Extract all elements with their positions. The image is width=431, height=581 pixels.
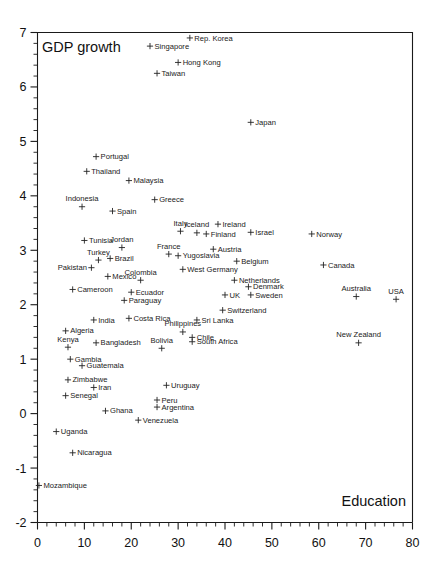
y-axis-title: GDP growth [42,39,121,55]
data-point: Australia [341,284,371,300]
data-point: Yugoslavia [175,251,220,260]
data-point-label: Indonesia [66,194,100,203]
plus-marker-icon [65,344,71,350]
plus-marker-icon [175,253,181,259]
data-point-label: Ghana [110,406,134,415]
data-point-label: USA [388,287,405,296]
data-point: Ireland [215,220,246,229]
y-tick-label: -1 [15,462,26,476]
data-point: UK [222,291,240,300]
data-point-label: Guatemala [87,361,125,370]
data-point: Taiwan [154,69,185,78]
plus-marker-icon [353,293,359,299]
plus-marker-icon [81,237,87,243]
plus-marker-icon [63,393,69,399]
data-point-label: Kenya [57,335,79,344]
plus-marker-icon [93,340,99,346]
data-point-label: Pakistan [58,263,87,272]
data-point: Tunisia [81,236,114,245]
plus-marker-icon [128,289,134,295]
data-point: Switzerland [220,306,267,315]
plus-marker-icon [135,417,141,423]
data-point-label: Switzerland [227,306,266,315]
x-tick-label: 60 [312,536,326,550]
data-point-label: Senegal [70,391,98,400]
plus-marker-icon [63,328,69,334]
plus-marker-icon [215,221,221,227]
data-point: Singapore [147,42,189,51]
plus-marker-icon [393,296,399,302]
data-point-label: Sri Lanka [201,316,234,325]
data-point: Turkey [87,248,110,264]
plus-marker-icon [105,273,111,279]
data-point: India [91,316,116,325]
plus-marker-icon [159,345,165,351]
plus-marker-icon [355,340,361,346]
data-point: Jordan [110,235,133,251]
data-point-label: Ireland [222,220,245,229]
plus-marker-icon [180,266,186,272]
data-point: Sweden [248,291,283,300]
plus-marker-icon [163,382,169,388]
plus-marker-icon [88,265,94,271]
plus-marker-icon [154,404,160,410]
y-tick-label: 1 [20,353,27,367]
data-point-label: Bolivia [151,336,174,345]
data-point-label: Singapore [155,42,190,51]
data-point-label: Yugoslavia [183,251,221,260]
plus-marker-icon [180,329,186,335]
data-point-label: Philippines [164,319,201,328]
data-point-label: Australia [341,284,371,293]
data-point-label: Thailand [91,167,120,176]
data-point: Bolivia [151,336,174,352]
plus-marker-icon [222,292,228,298]
plus-marker-icon [147,43,153,49]
x-tick-label: 50 [265,536,279,550]
data-point-label: Hong Kong [183,58,221,67]
data-point-label: Nicaragua [77,448,112,457]
data-point-label: Austria [218,245,242,254]
data-point-label: Iceland [185,220,210,229]
data-point: Cameroon [70,285,113,294]
plus-marker-icon [102,408,108,414]
x-tick-label: 20 [124,536,138,550]
data-point: Nicaragua [70,448,113,457]
data-point-label: Venezuela [143,416,179,425]
plus-marker-icon [194,230,200,236]
plus-marker-icon [231,277,237,283]
data-point-label: Rep. Korea [194,34,233,43]
data-point: Portugal [93,152,129,161]
y-axis-tick-labels: -2-101234567 [15,26,26,530]
data-point: USA [388,287,405,303]
data-point: Hong Kong [175,58,221,67]
data-point: Venezuela [135,416,179,425]
plus-marker-icon [53,428,59,434]
plus-marker-icon [234,258,240,264]
data-point: Mozambique [36,481,87,490]
plus-marker-icon [152,197,158,203]
x-tick-label: 0 [34,536,41,550]
data-point-label: Colombia [125,268,158,277]
data-point-label: Norway [316,230,342,239]
data-point-label: Canada [328,261,355,270]
scatter-plot-figure: 01020304050607080 -2-101234567 Singapore… [0,0,431,581]
x-tick-label: 30 [171,536,185,550]
plus-marker-icon [95,257,101,263]
x-tick-label: 80 [406,536,420,550]
data-point: Malaysia [126,176,164,185]
plus-marker-icon [138,277,144,283]
data-point-label: New Zealand [336,330,381,339]
data-point: Paraguay [121,296,161,305]
plus-marker-icon [79,204,85,210]
data-point-label: Jordan [110,235,133,244]
x-tick-label: 70 [359,536,373,550]
plus-marker-icon [121,297,127,303]
data-point: France [157,242,181,258]
x-axis-title: Education [342,493,407,509]
data-point: Uruguay [163,381,200,390]
data-point: Argentina [154,403,195,412]
plus-marker-icon [154,70,160,76]
data-point: Greece [152,195,185,204]
data-point: Spain [109,207,136,216]
data-point-label: Spain [117,207,136,216]
